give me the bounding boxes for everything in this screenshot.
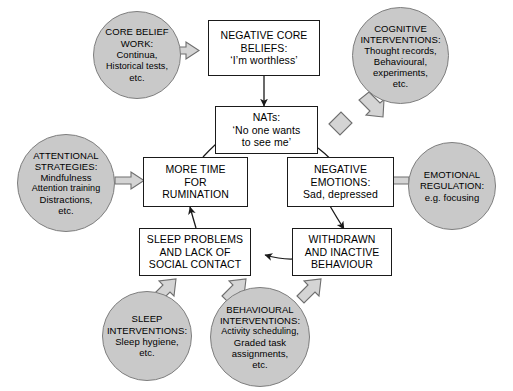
- box-negative-core-beliefs-line-2: ‘I’m worthless’: [230, 54, 297, 67]
- circle-attentional-strategies-line-2: Mindfulness: [40, 172, 91, 183]
- circle-emotional-regulation[interactable]: EMOTIONAL REGULATION: e.g. focusing: [408, 142, 496, 230]
- circle-attentional-strategies-line-3: Attention training: [32, 183, 100, 194]
- circle-emotional-regulation-line-1: REGULATION:: [420, 180, 484, 191]
- box-nats-line-0: NATs:: [253, 111, 281, 124]
- box-negative-emotions-line-2: Sad, depressed: [303, 188, 378, 201]
- circle-attentional-strategies-line-4: Distractions,: [40, 194, 93, 205]
- circle-behavioural-interventions-line-2: Activity scheduling,: [221, 326, 299, 337]
- circle-cognitive-interventions-line-2: Thought records,: [364, 45, 437, 56]
- circle-attentional-strategies-line-5: etc.: [58, 205, 74, 216]
- circle-sleep-interventions-line-2: Sleep hygiene,: [115, 336, 179, 347]
- circle-attentional-strategies[interactable]: ATTENTIONAL STRATEGIES: Mindfulness Atte…: [17, 134, 115, 232]
- circle-sleep-interventions-line-0: SLEEP: [132, 313, 163, 324]
- box-more-time-for-rumination-line-1: FOR: [184, 176, 206, 189]
- box-withdrawn-behaviour-line-1: AND INACTIVE: [305, 246, 380, 259]
- circle-core-belief-work-line-3: Historical tests,: [106, 61, 168, 72]
- box-negative-emotions[interactable]: NEGATIVE EMOTIONS: Sad, depressed: [287, 157, 394, 207]
- circle-core-belief-work-line-1: WORK:: [121, 38, 153, 49]
- circle-core-belief-work-line-2: Continua,: [116, 49, 157, 60]
- circle-cognitive-interventions[interactable]: COGNITIVE INTERVENTIONS: Thought records…: [352, 7, 449, 104]
- connector-sleep-to-rumination: [190, 207, 196, 228]
- circle-behavioural-interventions-line-4: assignments,: [232, 348, 289, 359]
- circle-cognitive-interventions-line-3: Behavioural,: [374, 56, 427, 67]
- box-negative-core-beliefs-line-0: NEGATIVE CORE: [221, 29, 308, 42]
- box-sleep-problems-line-0: SLEEP PROBLEMS: [147, 233, 243, 246]
- circle-behavioural-interventions-line-0: BEHAVIOURAL: [226, 304, 293, 315]
- circle-sleep-interventions[interactable]: SLEEP INTERVENTIONS: Sleep hygiene, etc.: [102, 291, 192, 381]
- box-negative-emotions-line-0: NEGATIVE: [314, 163, 367, 176]
- circle-core-belief-work-line-4: etc.: [129, 72, 145, 83]
- block-arrow-attentional-to-rumination: [115, 172, 144, 189]
- circle-sleep-interventions-line-1: INTERVENTIONS:: [107, 325, 187, 336]
- box-nats[interactable]: NATs: ‘No one wants to see me’: [215, 106, 318, 154]
- connector-emotions-to-withdrawn: [330, 206, 344, 229]
- circle-core-belief-work[interactable]: CORE BELIEF WORK: Continua, Historical t…: [93, 11, 181, 99]
- block-arrow-behint-to-withdrawn: [297, 279, 321, 303]
- box-withdrawn-behaviour-line-0: WITHDRAWN: [309, 233, 376, 246]
- circle-cognitive-interventions-line-0: COGNITIVE: [374, 23, 427, 34]
- box-withdrawn-behaviour[interactable]: WITHDRAWN AND INACTIVE BEHAVIOUR: [292, 228, 392, 276]
- box-more-time-for-rumination-line-2: RUMINATION: [162, 188, 229, 201]
- circle-behavioural-interventions-line-3: Graded task: [234, 337, 286, 348]
- circle-behavioural-interventions-line-1: INTERVENTIONS:: [220, 315, 300, 326]
- box-sleep-problems[interactable]: SLEEP PROBLEMS AND LACK OF SOCIAL CONTAC…: [139, 228, 251, 276]
- box-negative-core-beliefs-line-1: BELIEFS:: [241, 42, 288, 55]
- circle-sleep-interventions-line-3: etc.: [139, 347, 155, 358]
- box-nats-line-2: to see me’: [242, 136, 291, 149]
- circle-attentional-strategies-line-0: ATTENTIONAL: [33, 150, 98, 161]
- circle-cognitive-interventions-line-5: etc.: [393, 78, 409, 89]
- box-withdrawn-behaviour-line-2: BEHAVIOUR: [311, 258, 373, 271]
- box-more-time-for-rumination-line-0: MORE TIME: [165, 163, 225, 176]
- circle-behavioural-interventions[interactable]: BEHAVIOURAL INTERVENTIONS: Activity sche…: [210, 287, 310, 387]
- diagram-canvas: CORE BELIEF WORK: Continua, Historical t…: [0, 0, 513, 391]
- circle-emotional-regulation-line-0: EMOTIONAL: [424, 169, 480, 180]
- box-sleep-problems-line-1: AND LACK OF: [159, 246, 230, 259]
- circle-behavioural-interventions-line-5: etc.: [252, 359, 268, 370]
- circle-cognitive-interventions-line-1: INTERVENTIONS:: [360, 34, 440, 45]
- circle-cognitive-interventions-line-4: experiments,: [373, 67, 428, 78]
- box-negative-emotions-line-1: EMOTIONS:: [311, 176, 371, 189]
- circle-attentional-strategies-line-1: STRATEGIES:: [35, 161, 98, 172]
- circle-emotional-regulation-line-2: e.g. focusing: [425, 192, 480, 203]
- box-more-time-for-rumination[interactable]: MORE TIME FOR RUMINATION: [143, 157, 248, 207]
- box-nats-line-1: ‘No one wants: [233, 124, 301, 137]
- block-arrow-cognitive-to-nats-stem: [329, 112, 352, 135]
- box-sleep-problems-line-2: SOCIAL CONTACT: [149, 258, 241, 271]
- circle-core-belief-work-line-0: CORE BELIEF: [105, 26, 168, 37]
- box-negative-core-beliefs[interactable]: NEGATIVE CORE BELIEFS: ‘I’m worthless’: [208, 20, 320, 76]
